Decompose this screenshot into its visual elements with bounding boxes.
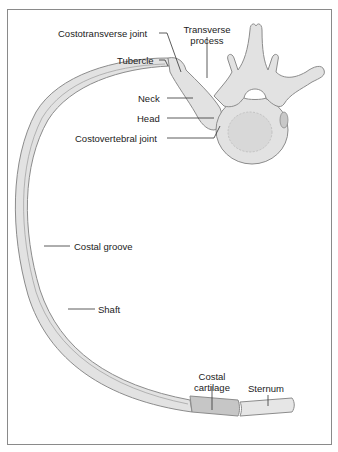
label-tubercle: Tubercle — [117, 55, 154, 66]
label-costotransverse-joint: Costotransverse joint — [58, 28, 147, 39]
label-transverse-process-line2: process — [190, 35, 223, 46]
rib-diagram — [0, 0, 338, 452]
sternum-shape — [240, 398, 294, 416]
label-costovertebral-joint: Costovertebral joint — [75, 133, 157, 144]
rib-neck-head — [168, 58, 222, 130]
label-costal-cartilage-line2: cartilage — [194, 382, 230, 393]
label-transverse-process-line1: Transverse — [183, 24, 230, 35]
label-shaft: Shaft — [98, 304, 120, 315]
label-transverse-process: Transverse process — [180, 24, 234, 46]
label-neck: Neck — [138, 93, 160, 104]
costal-facet — [280, 112, 288, 128]
label-costal-cartilage: Costal cartilage — [188, 371, 236, 393]
label-sternum: Sternum — [248, 383, 284, 394]
label-costal-groove: Costal groove — [74, 241, 133, 252]
label-head: Head — [137, 113, 160, 124]
rib-shaft — [15, 58, 192, 412]
cancellous-bone — [228, 112, 272, 152]
costal-cartilage-shape — [190, 396, 240, 416]
label-costal-cartilage-line1: Costal — [199, 371, 226, 382]
